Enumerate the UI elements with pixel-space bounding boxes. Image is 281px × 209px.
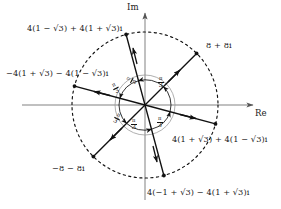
root-label-root-345: 4(1 + √3) + 4(1 − √3)i — [172, 134, 267, 144]
angle-numerator: π — [131, 118, 137, 123]
arrowhead-root-225 — [110, 128, 122, 140]
arrowhead-root-45 — [168, 70, 180, 82]
angle-denominator: 3 — [131, 124, 137, 131]
root-label-root-45: 8 + 8i — [206, 40, 232, 50]
root-point-345 — [214, 122, 218, 126]
angle-label-6: π 3 — [157, 116, 163, 129]
angle-numerator: π — [157, 116, 163, 121]
root-point-165 — [73, 84, 77, 88]
root-point-105 — [124, 33, 128, 37]
root-label-root-225: −8 − 8i — [52, 163, 85, 173]
axis-label-real: Re — [255, 108, 267, 118]
root-point-285 — [162, 174, 166, 178]
arrowhead-root-345 — [180, 115, 196, 119]
root-point-225 — [92, 155, 96, 159]
angle-label-5: π 3 — [131, 118, 137, 131]
argand-diagram: Im Re 4(1 − √3) + 4(1 + √3)i 8 + 8i −4(1… — [0, 0, 281, 209]
angle-label-1: π 3 — [158, 76, 164, 89]
root-point-45 — [195, 52, 199, 56]
angle-denominator: 3 — [157, 122, 163, 129]
vector-root-105 — [126, 35, 145, 106]
root-label-root-285: 4(−1 + √3) − 4(1 + √3)i — [147, 187, 249, 197]
angle-arc-345-45 — [163, 87, 171, 112]
angle-denominator: 3 — [158, 82, 164, 89]
angle-numerator: π — [158, 76, 164, 81]
root-label-root-105: 4(1 − √3) + 4(1 + √3)i — [27, 23, 122, 33]
axis-label-imaginary: Im — [127, 2, 139, 12]
arrowhead-root-165 — [94, 92, 110, 96]
root-label-root-165: −4(1 + √3) − 4(1 − √3)i — [6, 68, 108, 78]
